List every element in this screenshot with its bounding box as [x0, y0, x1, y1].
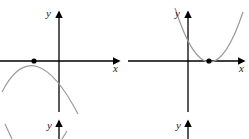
curve-fragment-right [62, 131, 67, 139]
panel-top-left: y x [0, 7, 119, 114]
x-axis-label: x [238, 62, 244, 74]
upward-parabola [175, 8, 243, 62]
parabola-graphs-figure: y x y x y y [0, 0, 249, 139]
vertex-point [31, 58, 36, 63]
curve-fragment-left [5, 124, 12, 139]
y-axis-label: y [45, 7, 51, 19]
vertex-point [206, 58, 211, 63]
x-axis-label: x [112, 62, 118, 74]
y-axis-label: y [46, 119, 52, 131]
y-axis-label: y [175, 119, 181, 131]
panel-bottom-right: y [175, 119, 188, 139]
downward-parabola [2, 66, 78, 114]
y-axis-label: y [174, 7, 180, 19]
panel-top-right: y x [128, 7, 244, 112]
panel-bottom-left: y [5, 119, 67, 139]
